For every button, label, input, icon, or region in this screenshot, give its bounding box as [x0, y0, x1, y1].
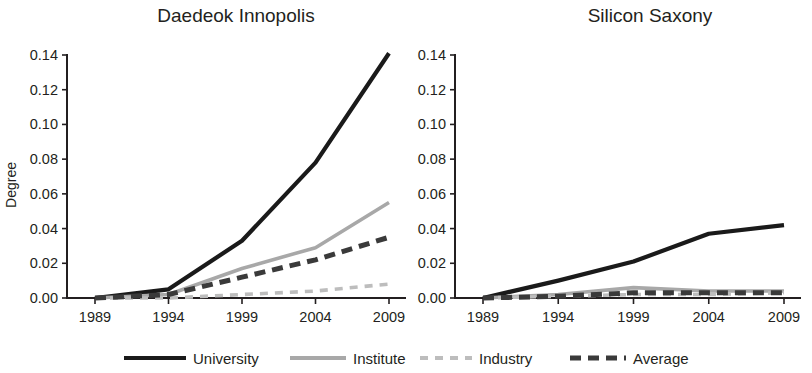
chart-canvas: Daedeok InnopolisDegree0.000.020.040.060… — [0, 0, 812, 373]
y-tick-label: 0.02 — [30, 255, 58, 271]
y-tick-label: 0.00 — [30, 290, 58, 306]
y-tick-label: 0.06 — [418, 186, 446, 202]
x-tick-label: 1989 — [467, 309, 499, 325]
chart-title-2: Silicon Saxony — [588, 5, 713, 26]
x-tick-label: 2009 — [373, 309, 405, 325]
y-axis-label: Degree — [3, 162, 19, 208]
chart-panel-2: Silicon Saxony0.000.020.040.060.080.100.… — [418, 5, 800, 325]
legend-label-institute: Institute — [353, 350, 406, 367]
y-tick-label: 0.04 — [418, 221, 446, 237]
x-tick-label: 2004 — [693, 309, 725, 325]
y-tick-label: 0.12 — [418, 82, 446, 98]
figure-two-panel-line-charts: Daedeok InnopolisDegree0.000.020.040.060… — [0, 0, 812, 373]
x-tick-label: 1999 — [617, 309, 649, 325]
x-tick-label: 2004 — [299, 309, 331, 325]
y-tick-label: 0.04 — [30, 221, 58, 237]
y-tick-label: 0.08 — [30, 151, 58, 167]
legend-label-industry: Industry — [479, 350, 533, 367]
chart-title-1: Daedeok Innopolis — [157, 5, 314, 26]
x-tick-label: 1994 — [542, 309, 574, 325]
y-tick-label: 0.06 — [30, 186, 58, 202]
chart-panel-1: Daedeok InnopolisDegree0.000.020.040.060… — [3, 5, 405, 325]
y-tick-label: 0.12 — [30, 82, 58, 98]
x-tick-label: 1989 — [79, 309, 111, 325]
y-tick-label: 0.14 — [30, 47, 58, 63]
chart-legend: UniversityInstituteIndustryAverage — [124, 350, 689, 367]
y-tick-label: 0.10 — [418, 116, 446, 132]
y-tick-label: 0.10 — [30, 116, 58, 132]
series-line-university — [95, 53, 389, 298]
legend-label-average: Average — [633, 350, 689, 367]
y-tick-label: 0.00 — [418, 290, 446, 306]
legend-label-university: University — [193, 350, 259, 367]
x-tick-label: 1994 — [152, 309, 184, 325]
x-tick-label: 1999 — [226, 309, 258, 325]
y-tick-label: 0.08 — [418, 151, 446, 167]
y-tick-label: 0.14 — [418, 47, 446, 63]
x-tick-label: 2009 — [768, 309, 800, 325]
y-tick-label: 0.02 — [418, 255, 446, 271]
